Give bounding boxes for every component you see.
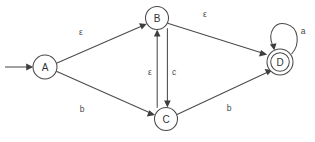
transition-a-to-b[interactable]: ε (56, 23, 146, 63)
transition-b-to-d-label: ε (203, 9, 207, 19)
transition-a-to-c[interactable]: b (56, 71, 155, 116)
state-a-label: A (42, 62, 49, 73)
state-node-a[interactable]: A (33, 55, 57, 79)
transition-c-to-d-line (177, 72, 268, 115)
transition-d-self-loop-label: a (301, 26, 306, 36)
transition-b-to-d[interactable]: ε (168, 9, 268, 56)
transition-b-to-c-arrowhead (164, 101, 171, 108)
transition-d-self-loop-arrowhead (270, 43, 277, 50)
transition-a-to-c-line (56, 71, 151, 113)
state-b-label: B (154, 13, 161, 24)
transition-b-to-c-label: c (172, 67, 177, 77)
state-node-d[interactable]: D (267, 49, 293, 75)
start-arrow (5, 64, 33, 71)
state-d-label: D (276, 57, 283, 68)
automaton-diagram: ε ε b b ε c (0, 0, 315, 142)
transition-a-to-b-line (56, 26, 142, 63)
transition-b-to-d-arrowhead (259, 50, 267, 57)
transition-c-to-d[interactable]: b (177, 69, 272, 115)
state-node-b[interactable]: B (146, 7, 169, 30)
transition-b-to-c[interactable]: c (164, 28, 177, 107)
transition-c-to-b-arrowhead (154, 30, 161, 37)
transition-a-to-c-label: b (80, 104, 85, 114)
state-c-label: C (162, 114, 169, 125)
transition-c-to-d-label: b (227, 103, 232, 113)
transition-b-to-d-line (168, 23, 263, 53)
transition-a-to-b-label: ε (79, 27, 83, 37)
state-node-c[interactable]: C (155, 108, 178, 131)
transition-a-to-c-arrowhead (147, 110, 155, 116)
transition-c-to-b[interactable]: ε (148, 30, 160, 108)
start-arrow-head (26, 64, 33, 71)
automaton-canvas: ε ε b b ε c (0, 0, 315, 142)
transition-c-to-b-label: ε (148, 67, 152, 77)
